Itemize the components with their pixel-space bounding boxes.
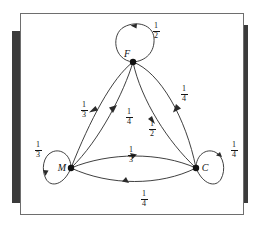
edge-label-FC: 1 4 bbox=[177, 85, 191, 103]
node-M-label: M bbox=[57, 162, 67, 173]
edge-label-CC: 1 4 bbox=[227, 141, 241, 159]
edge-F-C-outer bbox=[133, 62, 196, 168]
node-M[interactable]: M bbox=[57, 162, 74, 173]
edge-M-C-bottom bbox=[71, 168, 196, 183]
node-F[interactable]: F bbox=[123, 48, 136, 65]
edge-label-CF: 1 2 bbox=[145, 120, 159, 138]
edge-label-FM: 1 3 bbox=[77, 101, 91, 119]
edge-F-C-inner bbox=[133, 62, 196, 168]
node-F-label: F bbox=[123, 48, 131, 59]
edge-label-MC: 1 3 bbox=[124, 146, 138, 164]
edge-label-FF: 1 2 bbox=[149, 22, 163, 40]
node-C-label: C bbox=[202, 162, 209, 173]
edge-label-MF: 1 4 bbox=[122, 108, 136, 126]
edge-label-MM: 1 3 bbox=[31, 141, 45, 159]
figure-canvas: F M C 1 2 1 3 1 4 1 3 1 4 1 bbox=[0, 0, 266, 225]
edge-label-CM: 1 4 bbox=[137, 190, 151, 208]
self-loop-C bbox=[196, 151, 224, 184]
